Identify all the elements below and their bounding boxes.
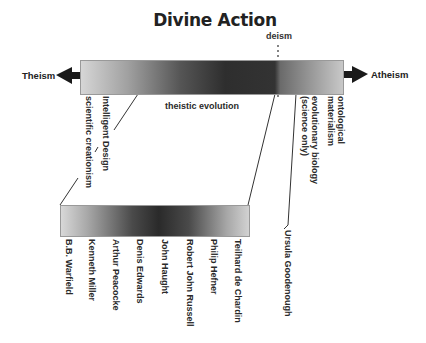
spectrum-bar-bottom bbox=[60, 205, 250, 237]
label-ontological-materialism: ontological materialism bbox=[326, 96, 346, 146]
label-evolutionary-biology: evolutionary biology (science only) bbox=[300, 96, 320, 184]
label-intelligent-design: Intelligent Design bbox=[101, 96, 111, 171]
name-warfield: B.B. Warfield bbox=[64, 239, 74, 295]
name-russell: Robert John Russell bbox=[185, 239, 195, 327]
name-miller: Kenneth Miller bbox=[87, 239, 97, 301]
left-arrow-icon bbox=[56, 67, 81, 84]
label-theistic-evolution: theistic evolution bbox=[165, 101, 239, 111]
right-arrow-icon bbox=[343, 66, 368, 83]
name-goodenough: Ursula Goodenough bbox=[283, 230, 293, 317]
name-haught: John Haught bbox=[160, 239, 170, 294]
name-hefner: Philip Hefner bbox=[209, 239, 219, 295]
atheism-label: Atheism bbox=[371, 69, 408, 80]
name-edwards: Denis Edwards bbox=[135, 239, 145, 304]
name-peacocke: Arthur Peacocke bbox=[111, 239, 121, 311]
name-teilhard: Teilhard de Chardin bbox=[233, 239, 243, 323]
theism-label: Theism bbox=[22, 70, 55, 81]
label-scientific-creationism: scientific creationism bbox=[84, 96, 94, 188]
spectrum-bar-top bbox=[80, 60, 344, 95]
